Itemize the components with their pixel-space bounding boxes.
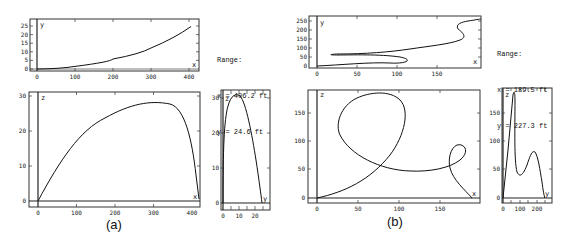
axis-label-y: y [545,190,549,198]
svg-text:10: 10 [212,164,220,171]
figure-canvas: 0510 152025 0100200 300400 y x 0102030 [0,0,572,242]
svg-text:15: 15 [21,39,29,46]
svg-text:0: 0 [303,62,307,69]
svg-text:0: 0 [315,70,319,77]
svg-text:100: 100 [294,137,305,144]
svg-text:0: 0 [301,194,305,201]
svg-text:5: 5 [24,56,28,63]
svg-text:100: 100 [392,70,403,77]
svg-text:400: 400 [184,73,195,80]
panel-a-range: Range: x = 406.2 ft y = 24.6 ft [217,30,267,150]
panel-b-range: Range: x = 189.5 ft y = 227.3 ft [497,24,547,144]
svg-text:400: 400 [187,209,198,216]
panel-b-label: (b) [387,214,403,229]
range-title: Range: [217,54,267,66]
axis-label-x: x [192,61,196,69]
svg-text:30: 30 [19,92,27,99]
svg-text:150: 150 [435,205,446,212]
trajectory-curve [317,93,472,198]
svg-text:0: 0 [24,65,28,72]
svg-text:0: 0 [215,199,219,206]
svg-text:0: 0 [22,197,26,204]
panel-a-label: (a) [106,217,122,232]
svg-text:0: 0 [36,209,40,216]
svg-text:25: 25 [21,22,29,29]
svg-text:20: 20 [21,31,29,38]
axis-label-x: x [193,193,197,201]
trajectory-curve [317,19,481,66]
range-x-value: x = 189.5 ft [497,84,547,96]
axis-label-x: x [472,190,476,198]
svg-text:100: 100 [515,205,526,212]
svg-text:50: 50 [300,53,308,60]
svg-text:20: 20 [251,212,259,219]
svg-text:250: 250 [296,17,307,24]
svg-text:0: 0 [221,212,225,219]
axis-label-z: z [41,94,45,102]
svg-text:100: 100 [70,73,81,80]
svg-text:0: 0 [501,205,505,212]
svg-text:50: 50 [298,165,306,172]
svg-text:200: 200 [110,209,121,216]
range-y-value: y = 24.6 ft [217,126,267,138]
svg-text:200: 200 [532,205,543,212]
svg-text:100: 100 [71,209,82,216]
panel-a-top-plot: 0510 152025 0100200 300400 y x [21,19,199,80]
axis-label-z: z [320,91,324,99]
svg-text:300: 300 [148,209,159,216]
svg-text:200: 200 [108,73,119,80]
axis-label-y: y [40,21,44,29]
svg-text:0: 0 [315,205,319,212]
range-title: Range: [497,48,547,60]
panel-b-side-xz-plot: 050100150 050100150 z x [294,90,480,212]
panel-a-side-xz-plot: 0102030 0100200 300400 z x [19,92,200,216]
axis-label-x: x [473,58,477,66]
svg-text:100: 100 [394,205,405,212]
svg-text:50: 50 [493,165,501,172]
svg-text:0: 0 [496,194,500,201]
svg-text:300: 300 [146,73,157,80]
svg-text:20: 20 [19,127,27,134]
trajectory-curve [37,27,191,70]
svg-text:150: 150 [432,70,443,77]
svg-text:0: 0 [35,73,39,80]
range-y-value: y = 227.3 ft [497,120,547,132]
svg-text:50: 50 [354,205,362,212]
svg-text:100: 100 [296,44,307,51]
svg-text:50: 50 [353,70,361,77]
trajectory-curve [38,103,199,201]
svg-text:200: 200 [296,26,307,33]
range-x-value: x = 406.2 ft [217,90,267,102]
svg-text:150: 150 [294,109,305,116]
axis-label-y: y [263,195,267,203]
svg-text:10: 10 [235,212,243,219]
axis-label-y: y [320,19,324,27]
svg-text:10: 10 [21,48,29,55]
panel-b-top-plot: 050100 150200250 050100150 y x [296,16,481,77]
svg-text:150: 150 [296,35,307,42]
svg-text:10: 10 [19,162,27,169]
